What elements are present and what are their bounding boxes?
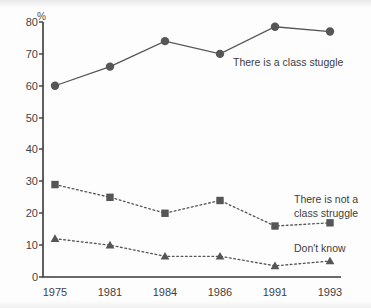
y-axis-tick-labels: 80 70 60 50 40 30 20 10 0 xyxy=(26,16,38,283)
y-tick-0: 0 xyxy=(32,271,38,283)
x-tick-1981: 1981 xyxy=(98,286,122,298)
y-tick-70: 70 xyxy=(26,48,38,60)
annotation-class-struggle: There is a class stuggle xyxy=(233,56,343,68)
annotation-not-class-struggle-line1: There is not a xyxy=(294,193,358,205)
chart-container: % 80 70 60 50 40 30 20 10 0 xyxy=(0,0,371,308)
series-dont-know xyxy=(51,234,335,269)
data-point-marker xyxy=(51,82,59,90)
data-point-marker xyxy=(326,257,335,265)
data-point-marker xyxy=(161,37,169,45)
y-tick-60: 60 xyxy=(26,80,38,92)
y-axis-unit-label: % xyxy=(37,11,46,22)
y-tick-50: 50 xyxy=(26,112,38,124)
y-tick-20: 20 xyxy=(26,207,38,219)
data-point-marker xyxy=(271,222,278,229)
data-point-marker xyxy=(106,194,113,201)
y-tick-80: 80 xyxy=(26,16,38,28)
y-tick-40: 40 xyxy=(26,143,38,155)
data-point-marker xyxy=(216,197,223,204)
data-point-marker xyxy=(51,181,58,188)
x-tick-1986: 1986 xyxy=(208,286,232,298)
annotation-not-class-struggle-line2: class struggle xyxy=(294,207,358,219)
x-tick-1984: 1984 xyxy=(153,286,177,298)
data-point-marker xyxy=(51,234,60,242)
y-tick-10: 10 xyxy=(26,239,38,251)
data-point-marker xyxy=(326,219,333,226)
data-point-marker xyxy=(161,210,168,217)
x-tick-1991: 1991 xyxy=(263,286,287,298)
line-chart-svg: % 80 70 60 50 40 30 20 10 0 xyxy=(0,0,371,308)
y-tick-30: 30 xyxy=(26,175,38,187)
x-axis-tick-labels: 1975 1981 1984 1986 1991 1993 xyxy=(43,286,342,298)
annotation-dont-know: Don't know xyxy=(294,242,346,254)
data-point-marker xyxy=(216,50,224,58)
data-point-marker xyxy=(271,23,279,31)
x-tick-1975: 1975 xyxy=(43,286,67,298)
data-point-marker xyxy=(106,62,114,70)
data-point-marker xyxy=(326,27,334,35)
x-tick-1993: 1993 xyxy=(318,286,342,298)
series-not-class-struggle xyxy=(51,181,333,230)
